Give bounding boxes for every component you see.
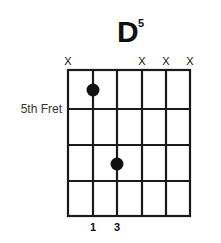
fretboard-grid [68,70,190,216]
finger-number-2: 3 [114,221,120,233]
string-marker-5: X [162,55,170,67]
finger-dot-string-3 [111,158,124,171]
finger-number-1: 1 [90,221,96,233]
finger-dot-string-2 [87,84,100,97]
chord-name: D [117,15,139,48]
string-markers: X X X X [64,55,194,67]
string-marker-6: X [186,55,194,67]
finger-numbers: 1 3 [90,221,120,233]
chord-diagram: D 5 X X X X 5th Fret 1 3 [0,0,221,243]
chord-title: D 5 [117,15,144,48]
fretboard-frame [68,70,190,216]
string-marker-4: X [138,55,146,67]
chord-superscript: 5 [138,17,144,29]
start-fret-label: 5th Fret [21,102,63,116]
string-marker-1: X [64,55,72,67]
